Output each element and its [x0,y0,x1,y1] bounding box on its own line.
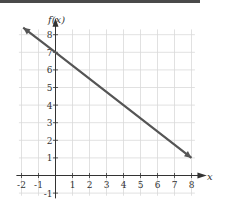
y-tick-label: 4 [47,101,53,111]
y-tick-label: -1 [44,189,53,199]
x-tick-label: 3 [104,180,110,190]
x-tick-label: 7 [172,180,178,190]
x-tick-label: 6 [155,180,161,190]
y-tick-label: 1 [47,153,53,163]
y-tick-label: 2 [47,136,53,146]
x-tick-label: 8 [189,180,195,190]
x-tick-label: 1 [70,180,76,190]
x-tick-label: -1 [34,180,43,190]
line-chart: -2-112345678-112345678 f(x) x [0,0,225,211]
y-tick-label: 5 [47,83,53,93]
y-tick-label: 6 [47,65,53,75]
tick-labels: -2-112345678-112345678 [17,30,195,198]
x-axis-arrow-icon [197,173,206,179]
x-tick-label: 4 [121,180,127,190]
x-tick-label: 2 [87,180,93,190]
y-tick-label: 8 [47,30,53,40]
grid [19,29,195,195]
y-axis-title: f(x) [47,14,65,25]
x-tick-label: -2 [17,180,26,190]
y-tick-label: 3 [47,118,53,128]
x-axis-title: x [207,171,213,182]
x-tick-label: 5 [138,180,144,190]
